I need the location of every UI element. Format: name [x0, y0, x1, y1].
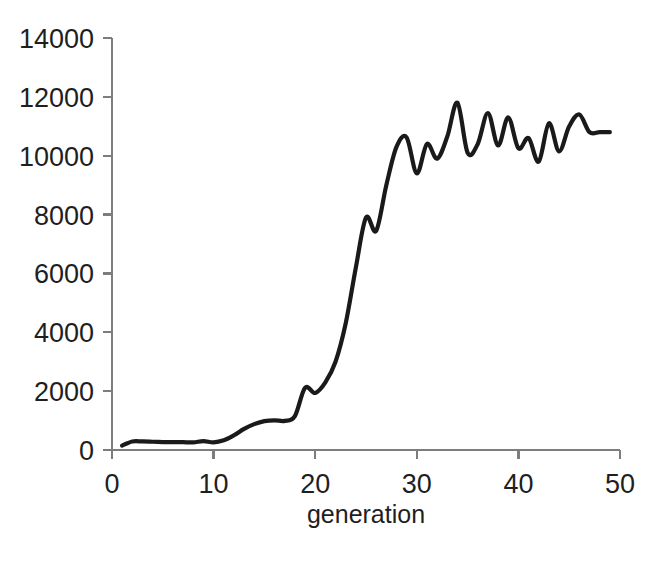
x-axis-ticks	[112, 450, 620, 459]
y-tick-label: 14000	[19, 24, 94, 54]
axes-group	[103, 38, 620, 459]
axis-lines	[112, 38, 620, 450]
x-tick-label: 20	[300, 469, 330, 499]
chart-container: 02000400060008000100001200014000 0102030…	[0, 0, 661, 564]
x-axis-title: generation	[307, 500, 425, 528]
x-tick-label: 10	[199, 469, 229, 499]
y-axis-ticks	[103, 38, 112, 450]
y-tick-label: 8000	[34, 201, 94, 231]
x-tick-label: 50	[605, 469, 635, 499]
y-tick-label: 2000	[34, 377, 94, 407]
y-tick-label: 4000	[34, 318, 94, 348]
x-tick-label: 30	[402, 469, 432, 499]
x-axis-tick-labels: 01020304050	[104, 469, 635, 499]
x-tick-label: 0	[104, 469, 119, 499]
y-tick-label: 12000	[19, 83, 94, 113]
x-tick-label: 40	[503, 469, 533, 499]
y-axis-tick-labels: 02000400060008000100001200014000	[19, 24, 94, 466]
y-tick-label: 6000	[34, 259, 94, 289]
y-tick-label: 0	[79, 436, 94, 466]
y-tick-label: 10000	[19, 142, 94, 172]
line-chart: 02000400060008000100001200014000 0102030…	[0, 0, 661, 564]
data-series-line	[122, 103, 610, 446]
